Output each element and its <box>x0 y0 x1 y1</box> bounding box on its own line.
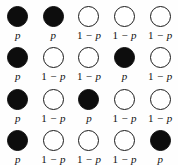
probability-variable: p <box>131 29 137 41</box>
filled-circle-icon <box>43 6 64 27</box>
node-probability-label: 1 − p <box>41 70 65 82</box>
probability-variable: p <box>15 153 21 165</box>
node-probability-label: 1 − p <box>77 29 101 41</box>
probability-variable: p <box>122 70 128 82</box>
node-cell: 1 − p <box>71 0 107 41</box>
node-cell: p <box>142 124 178 165</box>
open-circle-icon <box>114 89 135 110</box>
minus-sign-icon: − <box>118 29 131 41</box>
node-probability-label: 1 − p <box>41 112 65 124</box>
probability-variable: p <box>86 112 92 124</box>
filled-circle-icon <box>7 89 28 110</box>
node-cell: 1 − p <box>142 83 178 124</box>
node-cell: p <box>0 41 36 82</box>
open-circle-icon <box>43 130 64 151</box>
node-probability-label: 1 − p <box>112 112 136 124</box>
minus-sign-icon: − <box>118 153 131 165</box>
open-circle-icon <box>150 47 171 68</box>
probability-variable: p <box>15 112 21 124</box>
node-probability-label: p <box>15 112 21 124</box>
open-circle-icon <box>114 130 135 151</box>
node-probability-label: p <box>15 29 21 41</box>
open-circle-icon <box>78 130 99 151</box>
node-probability-label: p <box>15 153 21 165</box>
open-circle-icon <box>150 6 171 27</box>
open-circle-icon <box>78 47 99 68</box>
minus-sign-icon: − <box>82 29 95 41</box>
node-probability-label: 1 − p <box>77 153 101 165</box>
probability-variable: p <box>157 153 163 165</box>
probability-variable: p <box>96 29 102 41</box>
open-circle-icon <box>150 89 171 110</box>
node-cell: 1 − p <box>107 83 143 124</box>
probability-variable: p <box>131 153 137 165</box>
node-probability-label: 1 − p <box>41 153 65 165</box>
probability-number: 1 <box>148 29 154 41</box>
probability-variable: p <box>60 153 66 165</box>
probability-number: 1 <box>148 112 154 124</box>
node-cell: 1 − p <box>107 0 143 41</box>
filled-circle-icon <box>114 47 135 68</box>
node-probability-label: 1 − p <box>148 70 172 82</box>
minus-sign-icon: − <box>82 70 95 82</box>
node-cell: 1 − p <box>36 124 72 165</box>
minus-sign-icon: − <box>82 153 95 165</box>
open-circle-icon <box>78 6 99 27</box>
node-probability-label: p <box>122 70 128 82</box>
node-probability-label: 1 − p <box>112 153 136 165</box>
minus-sign-icon: − <box>47 112 60 124</box>
node-probability-label: 1 − p <box>148 29 172 41</box>
probability-variable: p <box>167 112 173 124</box>
bernoulli-node-grid-figure: pp1 − p1 − p1 − pp1 − p1 − pp1 − pp1 − p… <box>0 0 178 165</box>
probability-variable: p <box>60 112 66 124</box>
node-probability-label: p <box>15 70 21 82</box>
probability-variable: p <box>96 70 102 82</box>
node-probability-label: p <box>86 112 92 124</box>
minus-sign-icon: − <box>154 112 167 124</box>
probability-variable: p <box>60 70 66 82</box>
minus-sign-icon: − <box>47 70 60 82</box>
node-cell: p <box>0 0 36 41</box>
probability-variable: p <box>15 70 21 82</box>
node-probability-label: 1 − p <box>148 112 172 124</box>
node-probability-label: p <box>51 29 57 41</box>
node-grid: pp1 − p1 − p1 − pp1 − p1 − pp1 − pp1 − p… <box>0 0 178 165</box>
probability-variable: p <box>167 29 173 41</box>
probability-variable: p <box>51 29 57 41</box>
node-cell: p <box>36 0 72 41</box>
filled-circle-icon <box>7 130 28 151</box>
filled-circle-icon <box>150 130 171 151</box>
open-circle-icon <box>43 89 64 110</box>
minus-sign-icon: − <box>118 112 131 124</box>
node-cell: p <box>107 41 143 82</box>
node-cell: 1 − p <box>36 41 72 82</box>
probability-variable: p <box>167 70 173 82</box>
open-circle-icon <box>43 47 64 68</box>
probability-number: 1 <box>148 70 154 82</box>
node-cell: p <box>0 83 36 124</box>
filled-circle-icon <box>78 89 99 110</box>
open-circle-icon <box>114 6 135 27</box>
probability-variable: p <box>96 153 102 165</box>
node-cell: 1 − p <box>142 41 178 82</box>
minus-sign-icon: − <box>154 29 167 41</box>
node-cell: 1 − p <box>36 83 72 124</box>
node-probability-label: 1 − p <box>112 29 136 41</box>
minus-sign-icon: − <box>47 153 60 165</box>
node-cell: 1 − p <box>71 124 107 165</box>
node-cell: 1 − p <box>142 0 178 41</box>
filled-circle-icon <box>7 47 28 68</box>
node-probability-label: 1 − p <box>77 70 101 82</box>
node-cell: p <box>71 83 107 124</box>
node-probability-label: p <box>157 153 163 165</box>
node-cell: 1 − p <box>71 41 107 82</box>
filled-circle-icon <box>7 6 28 27</box>
node-cell: 1 − p <box>107 124 143 165</box>
node-cell: p <box>0 124 36 165</box>
minus-sign-icon: − <box>154 70 167 82</box>
probability-variable: p <box>131 112 137 124</box>
probability-variable: p <box>15 29 21 41</box>
